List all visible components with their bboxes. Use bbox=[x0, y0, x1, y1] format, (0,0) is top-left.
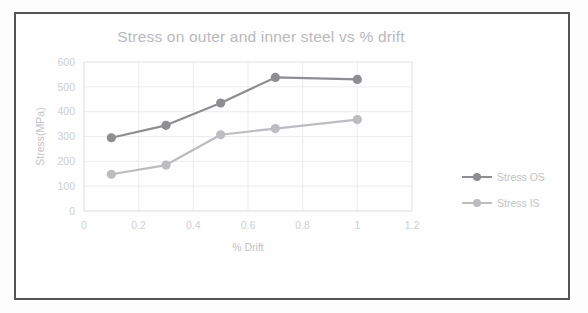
x-tick-label: 0.6 bbox=[241, 219, 256, 231]
data-series-group bbox=[107, 73, 362, 179]
legend-item[interactable]: Stress OS bbox=[462, 164, 572, 190]
data-point-marker bbox=[271, 124, 280, 133]
x-axis-title: % Drift bbox=[232, 241, 264, 253]
y-tick-labels-group: 0100200300400500600 bbox=[57, 56, 75, 217]
data-point-marker bbox=[161, 160, 170, 169]
y-tick-label: 0 bbox=[69, 205, 75, 217]
data-point-marker bbox=[161, 121, 170, 130]
x-tick-label: 0.4 bbox=[186, 219, 201, 231]
data-point-marker bbox=[353, 75, 362, 84]
chart-container: Stress on outer and inner steel vs % dri… bbox=[16, 14, 568, 298]
y-tick-label: 300 bbox=[57, 130, 75, 142]
plot-area: 0100200300400500600 00.20.40.60.811.2 % … bbox=[16, 14, 572, 302]
x-tick-label: 0.8 bbox=[295, 219, 310, 231]
data-point-marker bbox=[107, 133, 116, 142]
data-point-marker bbox=[353, 115, 362, 124]
y-tick-label: 600 bbox=[57, 56, 75, 68]
y-tick-label: 100 bbox=[57, 180, 75, 192]
gridlines-group bbox=[84, 62, 412, 211]
data-point-marker bbox=[216, 98, 225, 107]
y-tick-label: 500 bbox=[57, 81, 75, 93]
data-point-marker bbox=[271, 73, 280, 82]
legend-marker-icon bbox=[462, 171, 492, 183]
x-tick-label: 0 bbox=[81, 219, 87, 231]
x-tick-label: 1 bbox=[354, 219, 360, 231]
y-axis-title: Stress(MPa) bbox=[34, 107, 46, 165]
x-tick-label: 0.2 bbox=[131, 219, 146, 231]
data-point-marker bbox=[107, 170, 116, 179]
chart-legend: Stress OS Stress IS bbox=[462, 164, 572, 216]
figure-frame: Stress on outer and inner steel vs % dri… bbox=[14, 12, 570, 300]
y-tick-label: 400 bbox=[57, 105, 75, 117]
x-tick-label: 1.2 bbox=[405, 219, 420, 231]
data-point-marker bbox=[216, 130, 225, 139]
legend-marker-icon bbox=[462, 197, 492, 209]
series-line bbox=[111, 120, 357, 175]
legend-item-label: Stress IS bbox=[497, 197, 540, 209]
legend-item-label: Stress OS bbox=[497, 171, 545, 183]
legend-item[interactable]: Stress IS bbox=[462, 190, 572, 216]
x-tick-labels-group: 00.20.40.60.811.2 bbox=[81, 219, 419, 231]
y-tick-label: 200 bbox=[57, 155, 75, 167]
